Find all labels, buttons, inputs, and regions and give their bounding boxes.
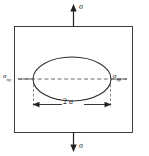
sigma-bottom-symbol: σ (79, 141, 83, 150)
dimension-arrowhead-left (33, 102, 40, 107)
dimension-arrowhead-right (105, 102, 112, 107)
sigma-tip-right-subscript: tip (117, 77, 122, 82)
sigma-tip-right-symbol: σ (113, 72, 116, 80)
sigma-tip-left-symbol: σ (3, 72, 6, 80)
label-sigma-top: σ (79, 3, 83, 11)
label-sigma-tip-right: σtip (113, 73, 121, 82)
crack-length-symbol: a (69, 97, 73, 106)
crack-length-number: 2 (63, 97, 67, 106)
label-crack-length: 2a (63, 98, 73, 106)
label-sigma-tip-left: σtip (3, 73, 11, 82)
load-arrow-bottom (70, 132, 76, 152)
sigma-tip-left-subscript: tip (7, 77, 12, 82)
sigma-top-symbol: σ (79, 2, 83, 11)
figure-canvas (0, 0, 149, 156)
crack-mechanics-figure: σ σ σtip σtip 2a (0, 0, 149, 156)
load-arrow-top (70, 4, 76, 27)
label-sigma-bottom: σ (79, 142, 83, 150)
